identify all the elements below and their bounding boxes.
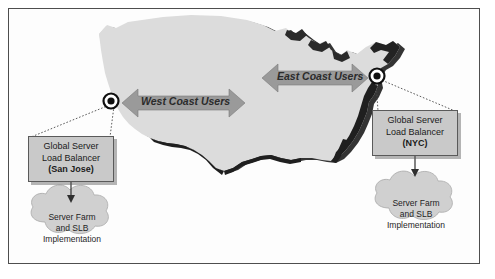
- server-farm-cloud-west: [31, 185, 108, 234]
- callout-line2: Load Balancer: [35, 153, 107, 165]
- leader-lines-east: [376, 79, 455, 111]
- callout-line1: Global Server: [379, 115, 451, 127]
- us-map-shape: [99, 15, 405, 175]
- server-farm-cloud-east: [375, 171, 452, 220]
- callout-box-san-jose[interactable]: Global Server Load Balancer (San Jose): [28, 136, 114, 182]
- callout-line1: Global Server: [35, 141, 107, 153]
- nyc-node: [370, 69, 385, 84]
- us-map-body: [99, 15, 400, 171]
- network-diagram: West Coast Users East Coast Users Global…: [0, 0, 495, 279]
- leader-lines-west: [31, 104, 114, 137]
- callout-line2: Load Balancer: [379, 127, 451, 139]
- callout-box-nyc[interactable]: Global Server Load Balancer (NYC): [372, 110, 458, 156]
- san-jose-node: [104, 94, 119, 109]
- callout-city: (NYC): [379, 138, 451, 150]
- callout-city: (San Jose): [35, 164, 107, 176]
